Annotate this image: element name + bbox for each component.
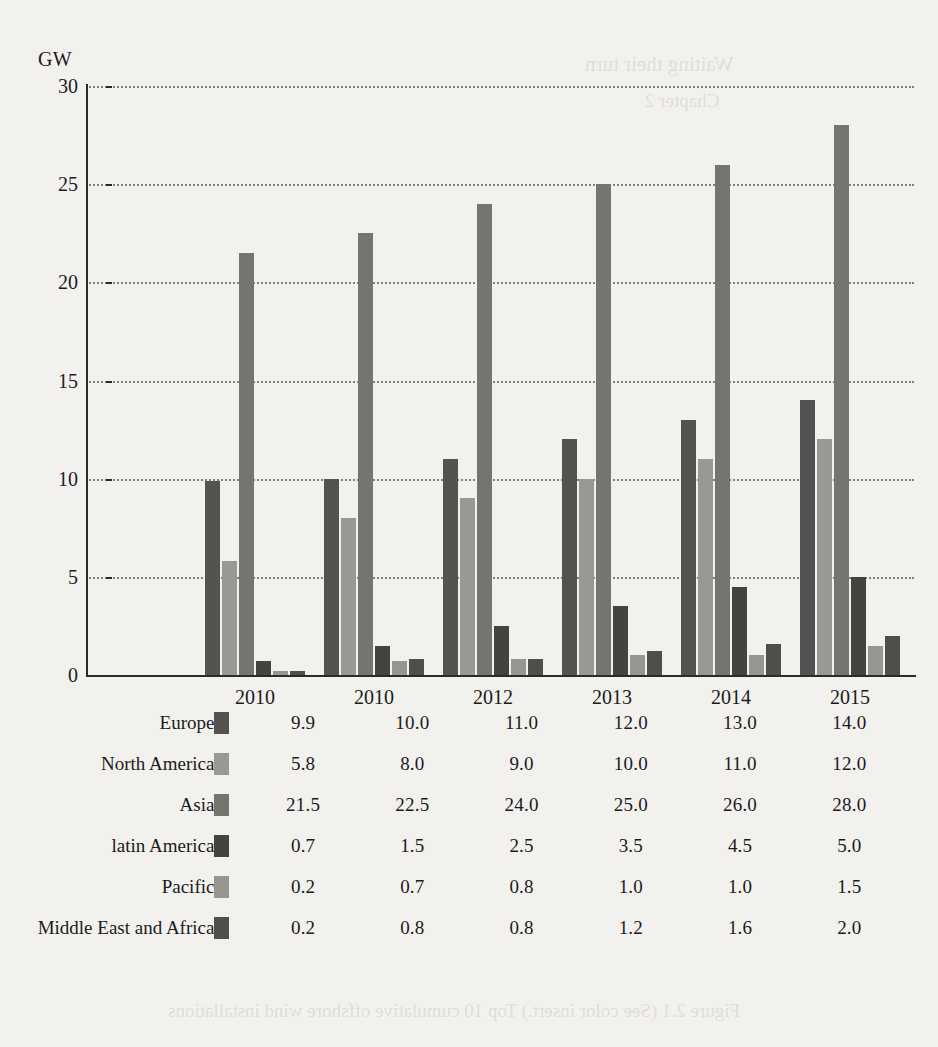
table-cell-value: 5.8 <box>249 753 358 794</box>
bar-chart: GW 051015202530 201020102012201320142015 <box>0 0 938 700</box>
bar <box>800 400 815 675</box>
table-cell-value: 0.8 <box>467 917 576 975</box>
bar <box>681 420 696 675</box>
y-axis-tick-mark <box>106 577 112 579</box>
bar <box>222 561 237 675</box>
bar <box>647 651 662 675</box>
bar-group <box>439 86 547 675</box>
table-cell-value: 12.0 <box>795 753 904 794</box>
bar <box>579 479 594 675</box>
table-row: Asia21.522.524.025.026.028.0 <box>14 794 904 835</box>
y-axis-tick-label: 15 <box>24 369 78 392</box>
bar-group <box>796 86 904 675</box>
series-name-label: Pacific <box>14 876 214 917</box>
bar <box>392 661 407 675</box>
table-cell-value: 10.0 <box>358 712 467 753</box>
legend-swatch-cell <box>214 712 248 753</box>
series-name-label: Europe <box>14 712 214 753</box>
figure-page: Waiting their turn Chapter 2 Figure 2.1 … <box>0 0 938 1047</box>
bar <box>698 459 713 675</box>
table-cell-value: 1.0 <box>685 876 794 917</box>
x-axis-tick-label: 2012 <box>473 686 513 709</box>
legend-swatch <box>214 794 229 816</box>
legend-swatch-cell <box>214 917 248 975</box>
table-cell-value: 1.5 <box>795 876 904 917</box>
table-cell-value: 0.8 <box>467 876 576 917</box>
table-cell-value: 3.5 <box>576 835 685 876</box>
table-cell-value: 25.0 <box>576 794 685 835</box>
bar <box>851 577 866 675</box>
bar <box>239 253 254 675</box>
y-axis-tick-label: 30 <box>24 75 78 98</box>
bar <box>715 165 730 675</box>
y-axis-tick-mark <box>106 479 112 481</box>
series-name-label: Middle East and Africa <box>14 917 214 975</box>
y-axis-unit-label: GW <box>38 48 72 71</box>
table-cell-value: 11.0 <box>685 753 794 794</box>
legend-swatch <box>214 917 229 939</box>
bar <box>494 626 509 675</box>
table-cell-value: 2.5 <box>467 835 576 876</box>
bar <box>732 587 747 675</box>
bar <box>256 661 271 675</box>
x-axis-tick-label: 2013 <box>592 686 632 709</box>
legend-swatch-cell <box>214 753 248 794</box>
bar <box>528 659 543 675</box>
y-axis-tick-mark <box>106 184 112 186</box>
y-axis-tick-label: 5 <box>24 565 78 588</box>
bar <box>766 644 781 675</box>
bar-group <box>320 86 428 675</box>
bar <box>205 481 220 675</box>
bar <box>885 636 900 675</box>
data-table: Europe9.910.011.012.013.014.0North Ameri… <box>0 712 938 987</box>
bar-group <box>558 86 666 675</box>
bar <box>409 659 424 675</box>
series-name-label: Asia <box>14 794 214 835</box>
bar <box>868 646 883 675</box>
y-axis-tick-mark <box>106 282 112 284</box>
legend-swatch <box>214 876 229 898</box>
bar <box>511 659 526 675</box>
table-cell-value: 0.2 <box>249 917 358 975</box>
legend-swatch <box>214 835 229 857</box>
table-cell-value: 5.0 <box>795 835 904 876</box>
bar <box>596 184 611 675</box>
bar <box>375 646 390 675</box>
table-cell-value: 9.0 <box>467 753 576 794</box>
legend-swatch-cell <box>214 835 248 876</box>
table-cell-value: 22.5 <box>358 794 467 835</box>
table-cell-value: 14.0 <box>795 712 904 753</box>
bar-group <box>677 86 785 675</box>
table-cell-value: 1.6 <box>685 917 794 975</box>
table-cell-value: 13.0 <box>685 712 794 753</box>
x-axis-tick-label: 2015 <box>830 686 870 709</box>
legend-swatch <box>214 712 229 734</box>
bar <box>477 204 492 675</box>
y-axis-tick-label: 20 <box>24 271 78 294</box>
series-name-label: latin America <box>14 835 214 876</box>
table-cell-value: 0.8 <box>358 917 467 975</box>
table-cell-value: 10.0 <box>576 753 685 794</box>
table-cell-value: 8.0 <box>358 753 467 794</box>
table-cell-value: 1.5 <box>358 835 467 876</box>
y-axis-tick-label: 10 <box>24 467 78 490</box>
legend-value-table: Europe9.910.011.012.013.014.0North Ameri… <box>14 712 904 975</box>
table-row: Pacific0.20.70.81.01.01.5 <box>14 876 904 917</box>
bar <box>630 655 645 675</box>
showthrough-text-c: Figure 2.1 (See color insert.) Top 10 cu… <box>168 1000 740 1022</box>
x-axis-line <box>86 675 916 677</box>
bar <box>749 655 764 675</box>
bar <box>324 479 339 675</box>
y-axis-tick-labels: 051015202530 <box>24 86 78 675</box>
table-row: North America5.88.09.010.011.012.0 <box>14 753 904 794</box>
table-cell-value: 9.9 <box>249 712 358 753</box>
table-cell-value: 4.5 <box>685 835 794 876</box>
bar <box>817 439 832 675</box>
table-cell-value: 1.0 <box>576 876 685 917</box>
legend-swatch-cell <box>214 876 248 917</box>
y-axis-tick-mark <box>106 86 112 88</box>
plot-area <box>86 86 914 675</box>
table-row: Europe9.910.011.012.013.014.0 <box>14 712 904 753</box>
bar <box>341 518 356 675</box>
table-cell-value: 11.0 <box>467 712 576 753</box>
